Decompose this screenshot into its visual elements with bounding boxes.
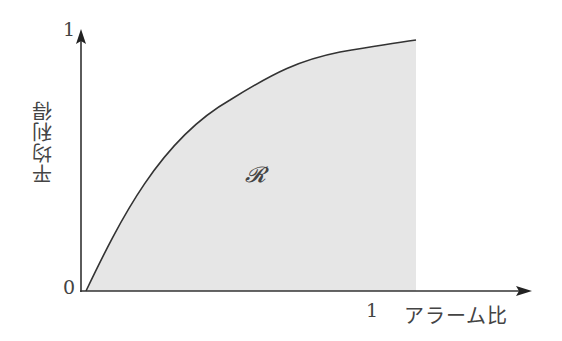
y-axis-label: 平均利得: [32, 100, 56, 184]
y-tick-1: 1: [63, 18, 75, 40]
y-tick-0: 0: [63, 276, 75, 298]
region-label: 𝓡: [245, 162, 266, 187]
plot-canvas: [0, 0, 562, 341]
x-axis-label: アラーム比: [404, 300, 508, 329]
x-tick-1: 1: [366, 299, 378, 321]
